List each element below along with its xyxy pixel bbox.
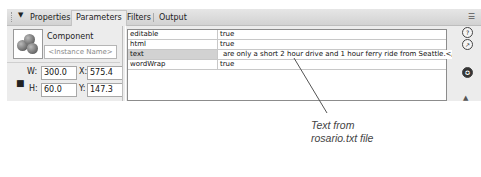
callout-leader-line [0, 0, 481, 177]
callout-line-2: rosario.txt file [311, 132, 373, 145]
callout-line-1: Text from [311, 119, 373, 132]
callout-annotation: Text from rosario.txt file [311, 119, 373, 145]
